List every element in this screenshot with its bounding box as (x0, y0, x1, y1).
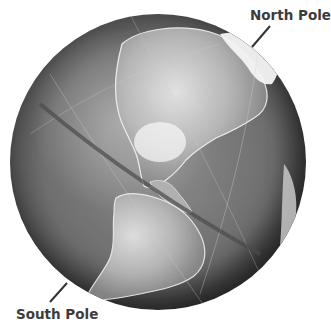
south-pole-leader-line (50, 283, 67, 302)
north-pole-label: North Pole (250, 7, 331, 23)
south-pole-label: South Pole (16, 306, 98, 322)
north-pole-leader-line (252, 26, 270, 47)
